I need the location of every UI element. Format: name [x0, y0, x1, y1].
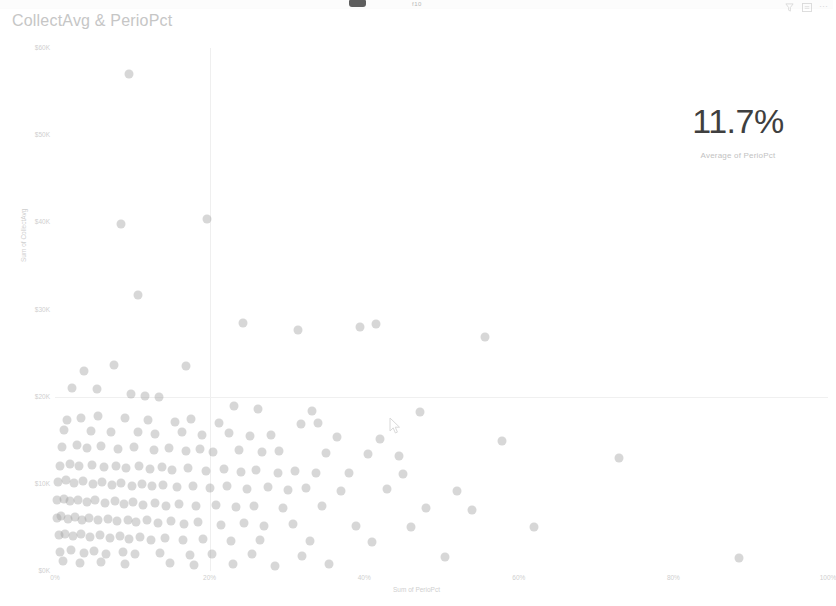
scatter-point[interactable] — [186, 551, 195, 560]
scatter-point[interactable] — [497, 437, 506, 446]
scatter-point[interactable] — [242, 485, 251, 494]
scatter-point[interactable] — [166, 517, 175, 526]
scatter-point[interactable] — [105, 533, 114, 542]
scatter-point[interactable] — [83, 444, 92, 453]
scatter-point[interactable] — [131, 550, 140, 559]
scatter-point[interactable] — [150, 499, 159, 508]
scatter-point[interactable] — [106, 428, 115, 437]
scatter-point[interactable] — [203, 214, 212, 223]
scatter-point[interactable] — [93, 411, 102, 420]
scatter-point[interactable] — [197, 431, 206, 440]
scatter-point[interactable] — [240, 519, 249, 528]
scatter-point[interactable] — [333, 432, 342, 441]
scatter-point[interactable] — [72, 441, 81, 450]
scatter-point[interactable] — [125, 70, 134, 79]
scatter-point[interactable] — [112, 517, 121, 526]
scatter-point[interactable] — [250, 501, 259, 510]
scatter-point[interactable] — [248, 550, 257, 559]
scatter-point[interactable] — [121, 560, 130, 569]
scatter-point[interactable] — [383, 485, 392, 494]
visual-header-toolbar[interactable]: ⋯ — [784, 2, 829, 13]
scatter-point[interactable] — [279, 504, 288, 513]
scatter-point[interactable] — [735, 553, 744, 562]
scatter-point[interactable] — [313, 418, 322, 427]
scatter-point[interactable] — [222, 482, 231, 491]
scatter-point[interactable] — [129, 443, 138, 452]
scatter-point[interactable] — [134, 290, 143, 299]
scatter-point[interactable] — [245, 431, 254, 440]
scatter-point[interactable] — [191, 502, 200, 511]
scatter-point[interactable] — [155, 392, 164, 401]
scatter-point[interactable] — [102, 549, 111, 558]
scatter-point[interactable] — [306, 537, 315, 546]
scatter-point[interactable] — [148, 482, 157, 491]
scatter-point[interactable] — [153, 519, 162, 528]
scatter-point[interactable] — [88, 460, 97, 469]
scatter-point[interactable] — [97, 442, 106, 451]
scatter-point[interactable] — [119, 547, 128, 556]
scatter-point[interactable] — [255, 535, 264, 544]
scatter-point[interactable] — [86, 426, 95, 435]
scatter-point[interactable] — [182, 362, 191, 371]
scatter-point[interactable] — [441, 553, 450, 562]
scatter-point[interactable] — [452, 486, 461, 495]
scatter-point[interactable] — [199, 534, 208, 543]
scatter-point[interactable] — [137, 479, 146, 488]
scatter-point[interactable] — [156, 548, 165, 557]
scatter-point[interactable] — [76, 413, 85, 422]
scatter-point[interactable] — [58, 557, 67, 566]
scatter-point[interactable] — [88, 479, 97, 488]
scatter-point[interactable] — [308, 406, 317, 415]
scatter-point[interactable] — [201, 466, 210, 475]
scatter-point[interactable] — [214, 418, 223, 427]
scatter-point[interactable] — [219, 465, 228, 474]
scatter-point[interactable] — [99, 463, 108, 472]
scatter-point[interactable] — [337, 486, 346, 495]
scatter-point[interactable] — [177, 428, 186, 437]
scatter-point[interactable] — [60, 425, 69, 434]
scatter-point[interactable] — [263, 483, 272, 492]
scatter-point[interactable] — [190, 560, 199, 569]
scatter-point[interactable] — [135, 462, 144, 471]
filter-icon[interactable] — [784, 2, 795, 13]
scatter-point[interactable] — [63, 416, 72, 425]
scatter-point[interactable] — [344, 468, 353, 477]
scatter-point[interactable] — [101, 499, 110, 508]
scatter-point[interactable] — [143, 416, 152, 425]
scatter-point[interactable] — [259, 521, 268, 530]
scatter-point[interactable] — [173, 483, 182, 492]
scatter-point[interactable] — [120, 414, 129, 423]
scatter-point[interactable] — [296, 419, 305, 428]
scatter-point[interactable] — [79, 367, 88, 376]
scatter-point[interactable] — [57, 443, 66, 452]
scatter-point[interactable] — [116, 220, 125, 229]
scatter-point[interactable] — [75, 559, 84, 568]
scatter-point[interactable] — [275, 446, 284, 455]
scatter-point[interactable] — [615, 453, 624, 462]
scatter-point[interactable] — [94, 516, 103, 525]
scatter-point[interactable] — [364, 450, 373, 459]
scatter-point[interactable] — [65, 459, 74, 468]
scatter-point[interactable] — [290, 466, 299, 475]
scatter-point[interactable] — [119, 499, 128, 508]
scatter-point[interactable] — [168, 465, 177, 474]
scatter-point[interactable] — [146, 465, 155, 474]
scatter-point[interactable] — [229, 402, 238, 411]
scatter-point[interactable] — [375, 435, 384, 444]
scatter-point[interactable] — [209, 447, 218, 456]
scatter-point[interactable] — [180, 519, 189, 528]
scatter-point[interactable] — [80, 548, 89, 557]
scatter-point[interactable] — [149, 445, 158, 454]
scatter-point[interactable] — [251, 465, 260, 474]
focus-mode-icon[interactable] — [801, 2, 812, 13]
scatter-point[interactable] — [236, 467, 245, 476]
scatter-point[interactable] — [126, 390, 135, 399]
scatter-point[interactable] — [267, 431, 276, 440]
scatter-point[interactable] — [298, 552, 307, 561]
scatter-point[interactable] — [325, 560, 334, 569]
scatter-point[interactable] — [321, 449, 330, 458]
scatter-point[interactable] — [133, 427, 142, 436]
scatter-point[interactable] — [122, 464, 131, 473]
scatter-point[interactable] — [56, 547, 65, 556]
scatter-point[interactable] — [91, 496, 100, 505]
